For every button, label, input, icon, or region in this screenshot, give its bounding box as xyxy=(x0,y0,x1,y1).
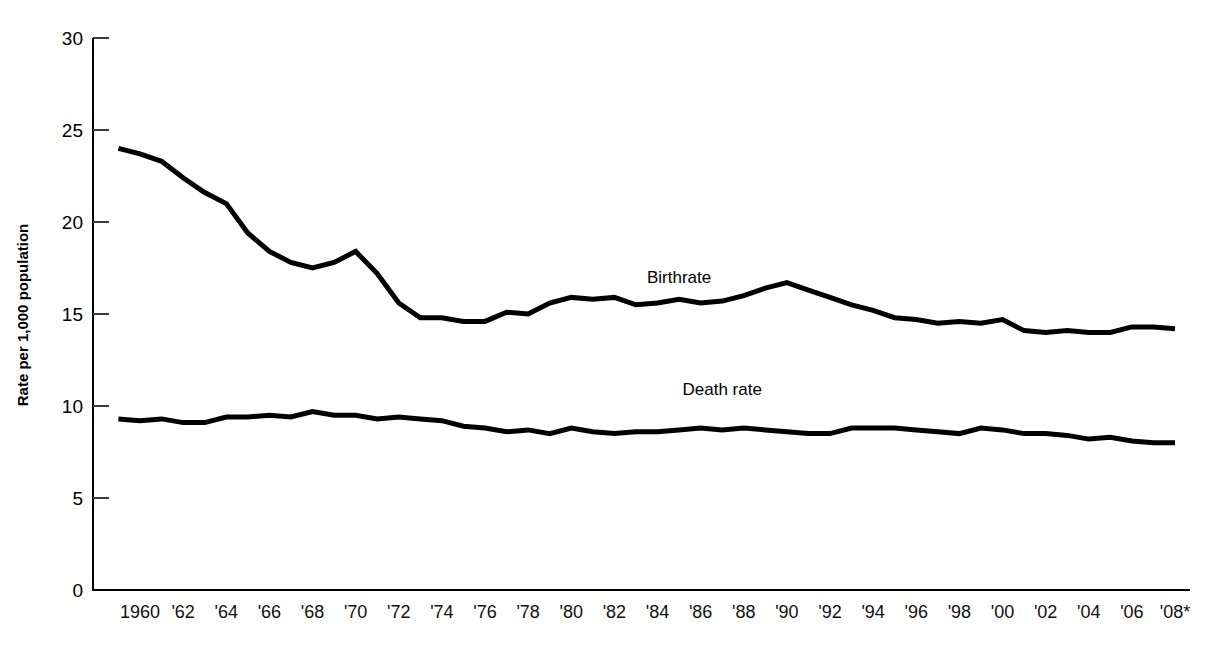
x-tick-label-96: '96 xyxy=(905,602,928,622)
y-tick-label-20: 20 xyxy=(62,212,83,233)
x-tick-label-06: '06 xyxy=(1120,602,1143,622)
x-tick-label-04: '04 xyxy=(1077,602,1100,622)
x-tick-label-68: '68 xyxy=(301,602,324,622)
y-tick-label-5: 5 xyxy=(72,488,83,509)
x-tick-label-84: '84 xyxy=(646,602,669,622)
x-tick-label-76: '76 xyxy=(473,602,496,622)
x-tick-label-64: '64 xyxy=(215,602,238,622)
x-tick-label-74: '74 xyxy=(430,602,453,622)
y-tick-label-0: 0 xyxy=(72,580,83,601)
y-axis-ticks: 30 25 20 15 10 5 0 xyxy=(62,28,109,601)
y-tick-label-25: 25 xyxy=(62,120,83,141)
x-tick-label-94: '94 xyxy=(861,602,884,622)
x-tick-label-78: '78 xyxy=(516,602,539,622)
x-tick-label-90: '90 xyxy=(775,602,798,622)
x-tick-label-88: '88 xyxy=(732,602,755,622)
y-axis-label: Rate per 1,000 population xyxy=(14,224,31,407)
x-tick-label-98: '98 xyxy=(948,602,971,622)
x-tick-label-80: '80 xyxy=(560,602,583,622)
x-axis-ticks: 1960'62'64'66'68'70'72'74'76'78'80'82'84… xyxy=(120,602,1190,622)
x-tick-label-00: '00 xyxy=(991,602,1014,622)
x-tick-label-02: '02 xyxy=(1034,602,1057,622)
x-tick-label-62: '62 xyxy=(171,602,194,622)
x-tick-label-66: '66 xyxy=(258,602,281,622)
series-line-birthrate xyxy=(118,148,1175,332)
x-tick-label-86: '86 xyxy=(689,602,712,622)
x-tick-label-08: '08* xyxy=(1160,602,1190,622)
x-tick-label-92: '92 xyxy=(818,602,841,622)
x-tick-label-1960: 1960 xyxy=(120,602,160,622)
chart-container: Rate per 1,000 population 30 25 20 15 10… xyxy=(0,0,1212,648)
line-chart: Rate per 1,000 population 30 25 20 15 10… xyxy=(0,0,1212,648)
series-line-death-rate xyxy=(118,412,1175,443)
axis-spines xyxy=(93,38,1190,590)
y-tick-label-10: 10 xyxy=(62,396,83,417)
x-tick-label-82: '82 xyxy=(603,602,626,622)
y-tick-label-15: 15 xyxy=(62,304,83,325)
x-tick-label-70: '70 xyxy=(344,602,367,622)
y-tick-label-30: 30 xyxy=(62,28,83,49)
series-label-birthrate: Birthrate xyxy=(647,268,711,287)
x-tick-label-72: '72 xyxy=(387,602,410,622)
series-label-death-rate: Death rate xyxy=(682,380,761,399)
